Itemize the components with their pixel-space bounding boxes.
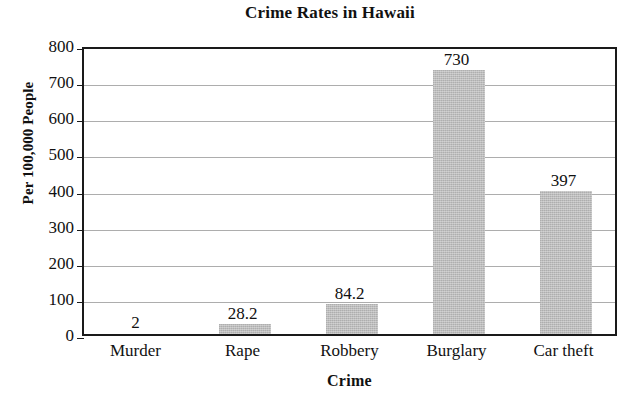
bar-burglary[interactable] [433, 70, 485, 334]
y-axis-tick [77, 157, 84, 158]
bar-value-rape: 28.2 [198, 305, 288, 323]
x-axis-tick-label-car-theft: Car theft [504, 341, 624, 361]
y-axis-tick [77, 121, 84, 122]
bar-value-car-theft: 397 [519, 172, 609, 190]
bar-rape[interactable] [219, 324, 271, 334]
y-axis-tick-label: 200 [12, 255, 74, 272]
y-axis-tick-label: 600 [12, 110, 74, 127]
gridline [84, 157, 615, 158]
bar-value-murder: 2 [91, 314, 181, 332]
y-axis-tick [77, 338, 84, 339]
y-axis-tick-label: 500 [12, 146, 74, 163]
gridline [84, 194, 615, 195]
y-axis-tick-label: 300 [12, 219, 74, 236]
gridline [84, 121, 615, 122]
y-axis-tick-label: 400 [12, 183, 74, 200]
bar-value-robbery: 84.2 [305, 285, 395, 303]
bar-chart: Crime Rates in Hawaii Per 100,000 People… [0, 0, 632, 406]
y-axis-tick [77, 49, 84, 50]
y-axis-tick-label: 100 [12, 291, 74, 308]
y-axis-tick [77, 230, 84, 231]
x-axis-tick-label-murder: Murder [76, 341, 196, 361]
y-axis-tick-label: 0 [12, 327, 74, 344]
gridline [84, 85, 615, 86]
x-axis-tick-label-burglary: Burglary [397, 341, 517, 361]
y-axis-tick [77, 194, 84, 195]
y-axis-tick-label: 800 [12, 38, 74, 55]
x-axis-tick-label-robbery: Robbery [290, 341, 410, 361]
chart-title: Crime Rates in Hawaii [0, 2, 632, 24]
bar-car-theft[interactable] [540, 191, 592, 334]
y-axis-tick [77, 85, 84, 86]
bar-value-burglary: 730 [412, 51, 502, 69]
y-axis-tick [77, 266, 84, 267]
gridline [84, 266, 615, 267]
bar-robbery[interactable] [326, 304, 378, 334]
gridline [84, 230, 615, 231]
x-axis-tick-label-rape: Rape [183, 341, 303, 361]
x-axis-label: Crime [82, 372, 617, 390]
y-axis-tick [77, 302, 84, 303]
y-axis-tick-label: 700 [12, 74, 74, 91]
